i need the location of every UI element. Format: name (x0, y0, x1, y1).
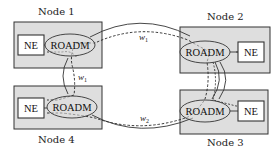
node2-label: Node 2 (207, 11, 244, 22)
wavelength-label-w2-bottom: w2 (140, 113, 149, 124)
node2-roadm-label: ROADM (185, 47, 225, 58)
wavelength-label-w1-left: w1 (78, 72, 87, 83)
node4-label: Node 4 (38, 134, 75, 145)
node4-roadm-label: ROADM (52, 102, 92, 113)
wavelength-label-w1-top: w1 (139, 32, 148, 43)
node1-label: Node 1 (38, 6, 75, 17)
node1-roadm-label: ROADM (50, 40, 90, 51)
node3-ne-label: NE (244, 106, 258, 117)
node3-label: Node 3 (207, 137, 244, 148)
node3-roadm-label: ROADM (185, 106, 225, 117)
node2-ne-label: NE (244, 47, 258, 58)
network-diagram: Node 1 Node 2 Node 3 Node 4 ROADM ROADM … (0, 0, 277, 151)
node1-ne-label: NE (24, 40, 38, 51)
node4-ne-label: NE (24, 103, 38, 114)
